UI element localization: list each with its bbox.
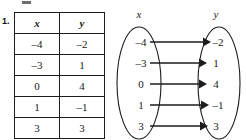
table-row: 1 –1 bbox=[15, 97, 105, 118]
column-header-y: y bbox=[60, 13, 105, 34]
cell-x: –4 bbox=[15, 34, 60, 55]
domain-set-label: x bbox=[136, 8, 142, 20]
scan-artifact bbox=[22, 1, 31, 4]
domain-element: –4 bbox=[135, 36, 148, 48]
cell-y: –1 bbox=[60, 97, 105, 118]
table-row: –3 1 bbox=[15, 55, 105, 76]
column-header-x: x bbox=[15, 13, 60, 34]
cell-y: 3 bbox=[60, 118, 105, 139]
cell-y: –2 bbox=[60, 34, 105, 55]
domain-element: 0 bbox=[138, 78, 144, 90]
cell-y: 4 bbox=[60, 76, 105, 97]
cell-x: 0 bbox=[15, 76, 60, 97]
mapping-arrow bbox=[150, 122, 208, 131]
problem-number: 1. bbox=[2, 16, 10, 26]
cell-x: –3 bbox=[15, 55, 60, 76]
table-body: –4 –2 –3 1 0 4 1 –1 3 3 bbox=[15, 34, 105, 139]
mapping-arrow bbox=[150, 38, 211, 47]
table-row: 0 4 bbox=[15, 76, 105, 97]
cell-x: 1 bbox=[15, 97, 60, 118]
range-set-label: y bbox=[213, 8, 219, 20]
table-header: x y bbox=[15, 13, 105, 34]
xy-value-table: x y –4 –2 –3 1 0 4 1 –1 3 3 bbox=[14, 12, 105, 139]
cell-x: 3 bbox=[15, 118, 60, 139]
domain-element: 3 bbox=[138, 120, 144, 132]
table-row: –4 –2 bbox=[15, 34, 105, 55]
range-element: –1 bbox=[212, 99, 224, 111]
domain-element: –3 bbox=[135, 57, 148, 69]
table-header-row: x y bbox=[15, 13, 105, 34]
range-element: –2 bbox=[212, 36, 224, 48]
range-element: 1 bbox=[213, 57, 219, 69]
range-element: 3 bbox=[213, 120, 219, 132]
cell-y: 1 bbox=[60, 55, 105, 76]
range-element: 4 bbox=[213, 78, 219, 90]
table-row: 3 3 bbox=[15, 118, 105, 139]
domain-element: 1 bbox=[138, 99, 144, 111]
mapping-diagram: x y –4 –3 0 1 3 –2 1 4 –1 3 bbox=[112, 0, 246, 140]
